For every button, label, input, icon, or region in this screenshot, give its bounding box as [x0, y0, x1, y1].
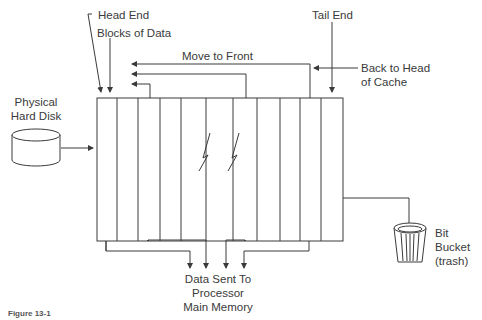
hard-disk-icon	[12, 129, 60, 166]
bit-line1: Bit	[435, 226, 470, 240]
break-mark-icon	[199, 133, 210, 171]
move-to-front-label: Move to Front	[182, 49, 253, 63]
cache-blocks	[97, 98, 343, 241]
head-end-label: Head End	[98, 8, 149, 22]
back-to-head-line2: of Cache	[361, 75, 430, 89]
data-sent-line3: Main Memory	[178, 300, 258, 314]
back-to-head-label: Back to Head of Cache	[361, 61, 430, 89]
physical-line2: Hard Disk	[7, 109, 65, 123]
data-sent-line1: Data Sent To	[178, 272, 258, 286]
bit-line2: Bucket	[435, 240, 470, 254]
physical-line1: Physical	[7, 95, 65, 109]
figure-caption: Figure 13-1	[8, 309, 51, 318]
blocks-of-data-label: Blocks of Data	[97, 26, 171, 40]
trash-bucket-icon	[394, 223, 426, 262]
tail-end-label: Tail End	[312, 8, 353, 22]
data-sent-line2: Processor	[178, 286, 258, 300]
bit-bucket-label: Bit Bucket (trash)	[435, 226, 470, 268]
physical-hard-disk-label: Physical Hard Disk	[7, 95, 65, 123]
data-sent-label: Data Sent To Processor Main Memory	[178, 272, 258, 314]
back-to-head-line1: Back to Head	[361, 61, 430, 75]
bit-line3: (trash)	[435, 254, 470, 268]
